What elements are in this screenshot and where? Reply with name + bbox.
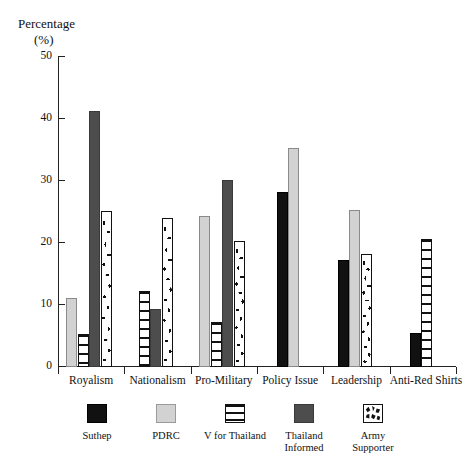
bar-nationalism-armysupporter bbox=[162, 218, 173, 367]
y-axis-tick-label: 40 bbox=[26, 111, 52, 123]
swatch-mottled-icon bbox=[363, 404, 383, 423]
bar-promilitary-pdrc bbox=[199, 216, 210, 367]
x-axis-label-antiredshirts: Anti-Red Shirts bbox=[390, 374, 456, 386]
x-axis-tick bbox=[390, 367, 391, 374]
y-axis-title-line2: (%) bbox=[34, 32, 54, 47]
bar-chart: Percentage (%) 01020304050 RoyalismNatio… bbox=[0, 0, 469, 465]
x-axis-tick bbox=[257, 367, 258, 374]
x-axis-label-leadership: Leadership bbox=[323, 374, 389, 386]
bar-royalism-thailandinformed bbox=[89, 111, 100, 367]
bar-nationalism-thailandinformed bbox=[150, 309, 161, 367]
y-axis-title-line1: Percentage bbox=[18, 16, 75, 31]
y-axis-tick-label: 0 bbox=[26, 359, 52, 371]
bar-promilitary-armysupporter bbox=[234, 241, 245, 367]
x-axis-label-royalism: Royalism bbox=[58, 374, 124, 386]
y-axis-tick-label: 10 bbox=[26, 297, 52, 309]
y-axis-tick-label: 20 bbox=[26, 235, 52, 247]
bar-royalism-armysupporter bbox=[101, 211, 112, 367]
legend-item-armysupporter[interactable]: ArmySupporter bbox=[330, 404, 416, 454]
bar-policyissue-pdrc bbox=[288, 148, 299, 367]
plot-area bbox=[58, 50, 456, 367]
bar-promilitary-thailandinformed bbox=[222, 180, 233, 367]
bar-leadership-armysupporter bbox=[361, 254, 372, 367]
x-axis-tick bbox=[124, 367, 125, 374]
x-axis-tick bbox=[191, 367, 192, 374]
bar-nationalism-vforthailand bbox=[139, 291, 150, 367]
x-axis-tick bbox=[323, 367, 324, 374]
y-axis-tick-label: 50 bbox=[26, 49, 52, 61]
swatch-lightgray-icon bbox=[156, 404, 176, 423]
swatch-darkgray-icon bbox=[294, 404, 314, 423]
y-axis-tick-label: 30 bbox=[26, 173, 52, 185]
chart-legend: SuthepPDRCV for ThailandThailandInformed… bbox=[0, 404, 469, 460]
x-axis-tick bbox=[456, 367, 457, 374]
x-axis-label-promilitary: Pro-Military bbox=[191, 374, 257, 386]
legend-label: Army bbox=[330, 430, 416, 442]
bar-leadership-suthep bbox=[338, 260, 349, 367]
x-axis-tick bbox=[58, 367, 59, 374]
bar-antiredshirts-suthep bbox=[410, 333, 421, 367]
bar-leadership-pdrc bbox=[349, 210, 360, 367]
x-axis-label-nationalism: Nationalism bbox=[124, 374, 190, 386]
swatch-horizontal-stripe-icon bbox=[225, 404, 245, 423]
swatch-black-icon bbox=[87, 404, 107, 423]
bar-antiredshirts-vforthailand bbox=[421, 239, 432, 367]
bar-royalism-vforthailand bbox=[78, 334, 89, 367]
bar-promilitary-vforthailand bbox=[211, 322, 222, 367]
bar-royalism-pdrc bbox=[66, 298, 77, 367]
x-axis-label-policyissue: Policy Issue bbox=[257, 374, 323, 386]
bar-policyissue-suthep bbox=[277, 192, 288, 367]
legend-label-line2: Supporter bbox=[330, 442, 416, 454]
